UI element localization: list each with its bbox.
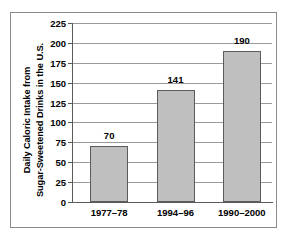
y-tick-label: 75 [55,137,66,148]
x-axis-category-label: 1990–2000 [218,207,266,218]
y-tick-label: 225 [50,18,66,29]
bar [90,146,128,202]
bar [157,90,195,202]
y-tick-label: 0 [61,197,66,208]
bar-chart-figure: Daily Caloric Intake from Sugar-Sweetene… [0,0,290,242]
y-tick-mark [68,63,73,64]
bar [223,51,261,202]
y-tick-label: 125 [50,97,66,108]
y-tick-label: 100 [50,117,66,128]
bar-value-label: 141 [168,74,184,85]
y-axis-line [72,23,73,203]
x-axis-category-label: 1977–78 [91,207,128,218]
y-tick-label: 200 [50,37,66,48]
y-tick-mark [68,83,73,84]
y-tick-mark [68,142,73,143]
y-axis-title: Daily Caloric Intake from Sugar-Sweetene… [14,12,52,228]
y-tick-mark [68,162,73,163]
y-tick-label: 50 [55,157,66,168]
y-tick-mark [68,202,73,203]
y-tick-mark [68,182,73,183]
bar-value-label: 70 [104,130,115,141]
bar-value-label: 190 [234,35,250,46]
y-tick-mark [68,43,73,44]
y-tick-label: 150 [50,77,66,88]
plot-area: 0255075100125150175200225 70141190 1977–… [73,23,272,202]
y-tick-label: 25 [55,177,66,188]
y-axis-title-line-1: Daily Caloric Intake from [22,67,32,174]
y-tick-mark [68,122,73,123]
x-axis-category-label: 1994–96 [157,207,194,218]
y-tick-label: 175 [50,57,66,68]
x-axis-line [72,202,273,203]
gridline [73,23,272,24]
y-tick-mark [68,23,73,24]
y-axis-title-line-2: Sugar-Sweetened Drinks in the U.S. [33,43,46,197]
y-tick-mark [68,103,73,104]
